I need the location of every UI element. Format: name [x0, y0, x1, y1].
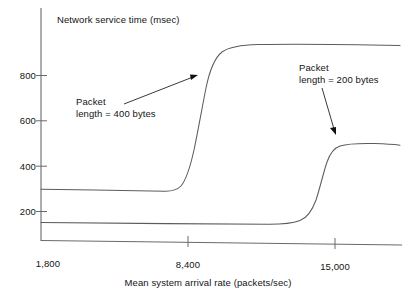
x-tick-label-1800: 1,800: [18, 258, 78, 270]
chart-plot-area: [0, 0, 409, 301]
y-tick-label-400: 400: [8, 161, 36, 173]
y-axis-title: Network service time (msec): [57, 14, 180, 26]
annotation-packet-400-line2: length = 400 bytes: [76, 108, 156, 120]
annotation-arrow-head-400: [190, 75, 198, 81]
x-tick-label-8400: 8,400: [158, 259, 218, 271]
annotation-packet-400-line1: Packet: [76, 96, 156, 108]
annotation-packet-200-line1: Packet: [299, 62, 379, 74]
annotation-packet-400: Packet length = 400 bytes: [76, 96, 156, 119]
y-tick-label-200: 200: [8, 206, 36, 218]
chart-figure: Network service time (msec) Mean system …: [0, 0, 409, 301]
annotation-arrow-head-200: [330, 127, 336, 135]
annotation-arrow-line-200: [322, 88, 334, 129]
x-axis-title: Mean system arrival rate (packets/sec): [93, 277, 323, 289]
annotation-packet-200: Packet length = 200 bytes: [299, 62, 379, 85]
series-line-packet-200: [41, 143, 400, 224]
x-tick-label-15000: 15,000: [305, 261, 365, 273]
y-tick-label-800: 800: [8, 70, 36, 82]
x-axis-line: [41, 241, 402, 246]
y-tick-label-600: 600: [8, 115, 36, 127]
annotation-packet-200-line2: length = 200 bytes: [299, 74, 379, 86]
